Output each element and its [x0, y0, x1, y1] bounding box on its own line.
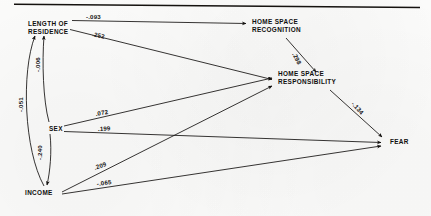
path-sex-to-income — [47, 134, 51, 185]
node-income: INCOME — [25, 189, 53, 196]
node-home-space-recognition-line2: RECOGNITION — [252, 26, 301, 33]
coef-sex-to-responsibility: .072 — [95, 108, 109, 117]
node-fear: FEAR — [390, 138, 409, 145]
path-sex-to-fear — [64, 132, 381, 143]
node-home-space-responsibility-line1: HOME SPACE — [278, 70, 324, 77]
coef-res-to-recognition: -.093 — [86, 13, 101, 20]
coef-income-to-fear: -.065 — [96, 178, 112, 187]
node-home-space-responsibility-line2: RESPONSIBILITY — [278, 78, 337, 85]
top-rule — [14, 4, 420, 7]
path-recognition-to-responsibility — [286, 38, 316, 72]
path-sex-to-residence — [43, 36, 49, 122]
coef-recognition-to-responsibility: .298 — [291, 51, 303, 66]
node-length-of-residence-line2: RESIDENCE — [28, 28, 69, 35]
coef-responsibility-to-fear: -.134 — [350, 100, 365, 116]
path-diagram-figure: LENGTH OF RESIDENCE HOME SPACE RECOGNITI… — [0, 0, 431, 216]
node-home-space-recognition-line1: HOME SPACE — [252, 18, 298, 25]
diagram-canvas: LENGTH OF RESIDENCE HOME SPACE RECOGNITI… — [0, 0, 431, 216]
coef-income-to-responsibility: .209 — [93, 160, 108, 171]
path-responsibility-to-fear — [330, 90, 382, 137]
coef-sex-to-income: -.240 — [36, 145, 43, 160]
coef-sex-to-residence: -.006 — [34, 57, 41, 72]
path-res-to-recognition — [72, 21, 246, 24]
coef-res-to-responsibility: .252 — [92, 30, 106, 40]
coef-sex-to-fear: .199 — [98, 124, 111, 132]
path-income-to-fear — [62, 146, 381, 194]
node-sex: SEX — [49, 125, 63, 132]
node-length-of-residence-line1: LENGTH OF — [28, 20, 68, 27]
coef-income-to-residence: -.051 — [17, 97, 24, 112]
